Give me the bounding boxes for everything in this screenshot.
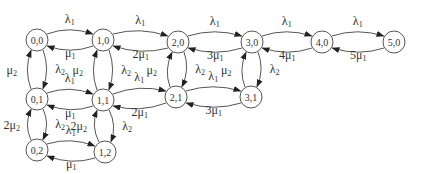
edge-label: μ2: [7, 63, 17, 78]
transition-3-0-to-4-0: [262, 32, 312, 36]
state-node-4-0: 4,0: [311, 31, 333, 53]
transition-4-0-to-5-0: [332, 32, 384, 36]
state-node-0-2: 0,2: [26, 139, 48, 161]
transition-1-1-to-1-2: [109, 110, 114, 142]
edge-label: λ2: [122, 119, 132, 134]
edge-label: μ2: [73, 63, 83, 78]
state-label: 1,1: [97, 95, 110, 106]
transition-1-2-to-1-1: [94, 110, 99, 142]
state-label: 0,0: [31, 35, 44, 46]
edge-label: λ2: [55, 62, 65, 77]
state-label: 3,0: [246, 37, 259, 48]
edge-label: λ1: [65, 12, 75, 27]
arrow-icon: [27, 109, 31, 140]
edge-label: λ1: [135, 13, 145, 28]
transition-2-0-to-3-0: [188, 32, 242, 36]
arrow-icon: [93, 50, 97, 90]
edge-label: 4μ1: [279, 48, 295, 63]
edge-label: μ1: [66, 157, 76, 172]
state-label: 2,1: [170, 92, 183, 103]
transition-0-2-to-0-1: [27, 109, 31, 140]
edge-label: 2μ1: [133, 47, 149, 62]
edge-label: 2μ2: [4, 118, 20, 132]
edge-label: λ2: [270, 62, 280, 77]
state-node-2-0: 2,0: [167, 31, 189, 53]
arrow-icon: [332, 32, 384, 36]
arrow-icon: [43, 109, 47, 140]
arrow-icon: [257, 52, 261, 87]
transition-1-0-to-1-1: [109, 50, 113, 90]
arrow-icon: [47, 141, 95, 146]
arrow-icon: [47, 30, 93, 34]
state-label: 5,0: [388, 37, 401, 48]
transition-0-0-to-1-0: [47, 30, 93, 34]
arrow-icon: [109, 110, 114, 142]
state-node-1-1: 1,1: [92, 89, 114, 111]
edge-label: λ2: [55, 117, 65, 132]
state-label: 3,1: [245, 92, 258, 103]
transition-0-1-to-0-0: [27, 50, 31, 89]
state-label: 4,0: [316, 37, 329, 48]
edge-label: λ1: [353, 14, 363, 29]
state-node-2-1: 2,1: [165, 86, 187, 108]
edge-label: λ1: [208, 69, 218, 84]
arrow-icon: [167, 52, 172, 87]
transition-1-0-to-2-0: [113, 31, 168, 36]
state-label: 0,1: [31, 94, 44, 105]
state-node-3-1: 3,1: [240, 86, 262, 108]
arrow-icon: [94, 110, 99, 142]
state-node-1-2: 1,2: [94, 141, 116, 163]
transition-2-1-to-3-1: [186, 87, 241, 91]
edge-label: λ1: [134, 70, 144, 85]
transition-2-1-to-2-0: [167, 52, 172, 87]
edge-label: 2μ2: [71, 119, 87, 133]
transition-0-2-to-1-2: [47, 141, 95, 146]
transition-1-1-to-1-0: [93, 50, 97, 90]
state-node-0-1: 0,1: [26, 88, 48, 110]
state-node-3-0: 3,0: [241, 31, 263, 53]
diagram-canvas: λ1μ1λ12μ1λ13μ1λ14μ1λ15μ1λ1μ1λ12μ1λ13μ1λ1…: [0, 0, 427, 174]
transition-0-0-to-0-1: [43, 50, 47, 89]
edge-label: λ1: [210, 14, 220, 29]
arrow-icon: [47, 89, 93, 94]
arrow-icon: [113, 88, 166, 94]
edge-label: 3μ1: [207, 48, 223, 63]
edge-label: λ2: [121, 63, 131, 78]
state-label: 0,2: [31, 145, 44, 156]
edge-label: 2μ1: [132, 105, 148, 120]
transition-3-0-to-3-1: [257, 52, 261, 87]
state-node-1-0: 1,0: [92, 29, 114, 51]
edge-label: μ2: [221, 63, 231, 78]
arrow-icon: [262, 32, 312, 36]
arrow-icon: [188, 32, 242, 36]
transition-3-1-to-3-0: [242, 52, 246, 87]
state-label: 1,0: [97, 35, 110, 46]
arrow-icon: [109, 50, 113, 90]
transition-0-1-to-0-2: [43, 109, 47, 140]
edge-label: 5μ1: [350, 48, 366, 63]
arrow-icon: [242, 52, 246, 87]
edge-label: 3μ1: [206, 103, 222, 118]
edge-label: λ2: [195, 62, 205, 77]
arrow-icon: [43, 50, 47, 89]
transition-2-0-to-2-1: [182, 52, 187, 87]
state-node-5-0: 5,0: [383, 31, 405, 53]
arrow-icon: [186, 87, 241, 91]
edge-label: λ1: [282, 14, 292, 29]
arrow-icon: [113, 31, 168, 36]
state-label: 2,0: [172, 37, 185, 48]
arrow-icon: [182, 52, 187, 87]
edge-label: μ1: [65, 46, 75, 61]
state-diagram: λ1μ1λ12μ1λ13μ1λ14μ1λ15μ1λ1μ1λ12μ1λ13μ1λ1…: [0, 0, 427, 174]
state-node-0-0: 0,0: [26, 29, 48, 51]
arrow-icon: [27, 50, 31, 89]
edge-label: μ1: [65, 106, 75, 121]
transition-1-1-to-2-1: [113, 88, 166, 94]
transition-0-1-to-1-1: [47, 89, 93, 94]
state-label: 1,2: [99, 147, 112, 158]
edge-label: μ2: [147, 63, 157, 78]
